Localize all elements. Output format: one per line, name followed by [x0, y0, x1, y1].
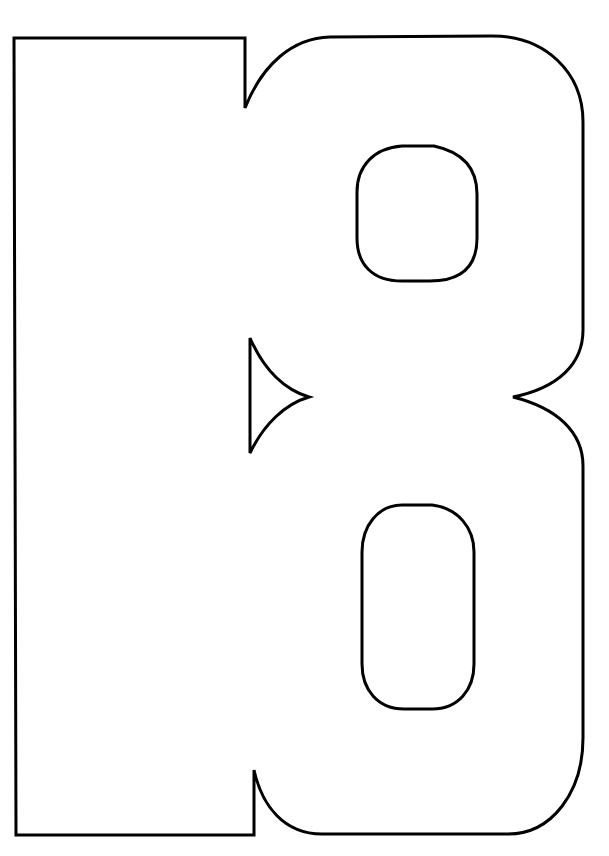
- numeral-18-outline: [0, 0, 609, 856]
- lower-hole: [362, 505, 474, 709]
- waist-triangle: [250, 338, 309, 453]
- outer-outline: [14, 36, 583, 835]
- upper-hole: [357, 146, 477, 281]
